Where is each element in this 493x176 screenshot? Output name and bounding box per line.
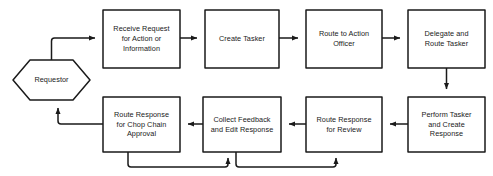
- node-route-action-shape[interactable]: [306, 10, 382, 68]
- edge-route-review-to-perform-tasker: [236, 152, 336, 167]
- edge-route-chop-to-collect-feedback: [128, 152, 228, 167]
- node-route-review-shape[interactable]: [306, 97, 382, 152]
- flowchart-canvas: Requestor Receive Request for Action or …: [0, 0, 493, 176]
- node-perform-tasker-shape[interactable]: [408, 97, 485, 152]
- node-receive-request-shape[interactable]: [103, 10, 180, 68]
- flowchart-graphics: [0, 0, 493, 176]
- edge-route-chop-to-requestor: [58, 108, 103, 124]
- node-route-chop-shape[interactable]: [103, 97, 180, 152]
- node-collect-feedback-shape[interactable]: [203, 97, 281, 152]
- node-requestor-shape[interactable]: [13, 60, 90, 100]
- node-delegate-route-shape[interactable]: [408, 10, 485, 68]
- edge-requestor-to-receive-request: [52, 38, 96, 60]
- node-create-tasker-shape[interactable]: [205, 10, 279, 68]
